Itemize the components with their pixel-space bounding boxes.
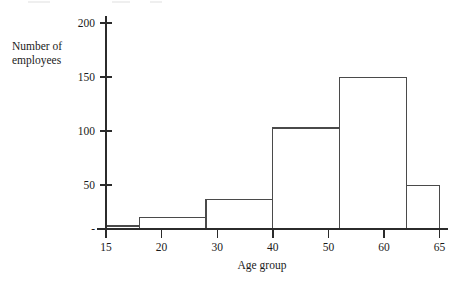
bars-group: [106, 78, 440, 229]
x-tick-label-40: 40: [267, 241, 279, 253]
x-tick-labels: 15 20 30 40 50 60 65: [100, 241, 445, 253]
bar-60-65: [406, 186, 439, 229]
y-axis-title-line-2: employees: [12, 54, 62, 67]
x-tick-label-30: 30: [211, 241, 223, 253]
y-axis-title-line-1: Number of: [12, 40, 62, 52]
histogram-figure: 200 150 100 50 - 15 20 30 40 50 60 65 Ag…: [0, 0, 454, 281]
x-tick-label-60: 60: [378, 241, 390, 253]
x-tick-marks: [106, 229, 440, 238]
y-tick-label-50: 50: [84, 179, 96, 191]
y-tick-label-100: 100: [78, 125, 96, 137]
bar-30-40: [206, 199, 273, 229]
bar-40-50: [273, 128, 340, 229]
x-tick-label-50: 50: [323, 241, 335, 253]
y-tick-label-zero: -: [91, 222, 95, 234]
chart-canvas: 200 150 100 50 - 15 20 30 40 50 60 65 Ag…: [0, 0, 454, 281]
y-tick-label-200: 200: [78, 17, 96, 29]
x-axis-title: Age group: [238, 259, 287, 272]
bar-50-60: [340, 78, 407, 229]
bar-20-30: [139, 218, 206, 229]
y-tick-label-150: 150: [78, 71, 96, 83]
x-tick-label-20: 20: [156, 241, 168, 253]
y-axis-title: Number of employees: [12, 40, 62, 67]
y-tick-labels: 200 150 100 50 -: [78, 17, 96, 234]
x-tick-label-15: 15: [100, 241, 112, 253]
x-tick-label-65: 65: [434, 241, 446, 253]
